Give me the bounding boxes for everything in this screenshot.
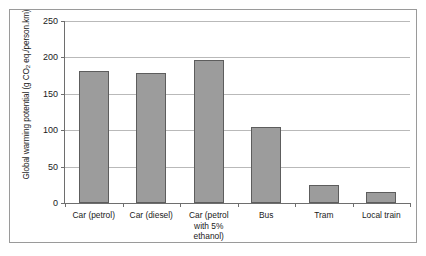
figure: Global warming potential (g CO2 eq./pers… — [0, 0, 426, 256]
x-tick-mark — [295, 203, 296, 207]
y-tick-mark — [61, 57, 65, 58]
y-axis-title-text-before: Global warming potential (g CO — [22, 68, 31, 179]
y-tick-label: 200 — [43, 52, 58, 62]
x-axis-category-label: Local train — [362, 210, 401, 221]
bar — [251, 127, 281, 203]
y-tick-mark — [61, 94, 65, 95]
x-axis-category-label-line: Local train — [362, 210, 401, 221]
bar — [309, 185, 339, 203]
x-tick-mark — [353, 203, 354, 207]
bar — [79, 71, 109, 203]
gridline — [65, 94, 410, 95]
x-axis-category-label-line: ethanol) — [189, 231, 229, 242]
x-axis-category-label-line: Bus — [259, 210, 273, 221]
y-tick-mark — [61, 21, 65, 22]
y-tick-label: 0 — [53, 198, 58, 208]
bar — [366, 192, 396, 203]
bar — [136, 73, 166, 203]
y-tick-label: 100 — [43, 125, 58, 135]
x-axis-category-label-line: Car (diesel) — [130, 210, 173, 221]
x-axis-category-label: Car (diesel) — [130, 210, 173, 221]
x-tick-mark — [123, 203, 124, 207]
y-tick-label: 250 — [43, 16, 58, 26]
y-tick-mark — [61, 130, 65, 131]
y-axis-title-text-after: eq./person.km) — [22, 10, 31, 65]
x-axis-category-label: Car (petrol) — [73, 210, 115, 221]
y-axis-title: Global warming potential (g CO2 eq./pers… — [22, 0, 31, 195]
x-axis-category-label-line: Car (petrol — [189, 210, 229, 221]
x-axis-category-label: Bus — [259, 210, 273, 221]
x-axis-category-label: Car (petrolwith 5%ethanol) — [189, 210, 229, 242]
x-tick-mark — [410, 203, 411, 207]
bar — [194, 60, 224, 203]
x-tick-mark — [238, 203, 239, 207]
x-axis-category-label: Tram — [314, 210, 333, 221]
x-axis-category-label-line: Car (petrol) — [73, 210, 115, 221]
x-axis-category-label-line: Tram — [314, 210, 333, 221]
gridline — [65, 167, 410, 168]
x-tick-mark — [65, 203, 66, 207]
gridline — [65, 130, 410, 131]
gridline — [65, 57, 410, 58]
x-axis-category-label-line: with 5% — [189, 221, 229, 232]
y-tick-label: 50 — [48, 162, 58, 172]
plot-area: 050100150200250 Car (petrol)Car (diesel)… — [64, 21, 410, 204]
gridline — [65, 21, 410, 22]
y-tick-label: 150 — [43, 89, 58, 99]
x-tick-mark — [180, 203, 181, 207]
y-axis-title-subscript: 2 — [24, 65, 31, 68]
y-tick-mark — [61, 167, 65, 168]
